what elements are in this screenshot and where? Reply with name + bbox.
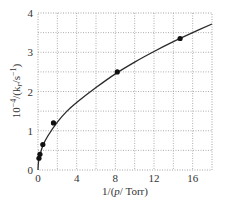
y-tick-label: 3	[28, 46, 34, 58]
fit-curve	[38, 24, 212, 170]
data-point-marker	[178, 36, 183, 41]
y-tick-label: 0	[28, 164, 34, 176]
data-point-marker	[51, 120, 56, 125]
data-points	[36, 36, 182, 161]
chart: 0481216 01234 1/(p/ Torr) 10−4/(kr/s−1)	[0, 0, 225, 206]
data-point-marker	[40, 142, 45, 147]
data-point-marker	[37, 152, 42, 157]
x-tick-label: 8	[113, 172, 119, 184]
fit-line	[38, 24, 212, 170]
grid-lines	[38, 13, 212, 170]
y-tick-label: 4	[28, 7, 34, 19]
x-tick-label: 16	[187, 172, 199, 184]
y-axis-label: 10−4/(kr/s−1)	[9, 63, 24, 118]
x-tick-label: 12	[149, 172, 160, 184]
x-tick-labels: 0481216	[35, 172, 198, 184]
y-tick-label: 2	[28, 86, 34, 98]
y-tick-labels: 01234	[28, 7, 34, 176]
data-point-marker	[115, 69, 120, 74]
x-tick-label: 0	[35, 172, 41, 184]
x-tick-label: 4	[74, 172, 80, 184]
y-tick-label: 1	[28, 125, 34, 137]
x-axis-label: 1/(p/ Torr)	[102, 185, 148, 198]
